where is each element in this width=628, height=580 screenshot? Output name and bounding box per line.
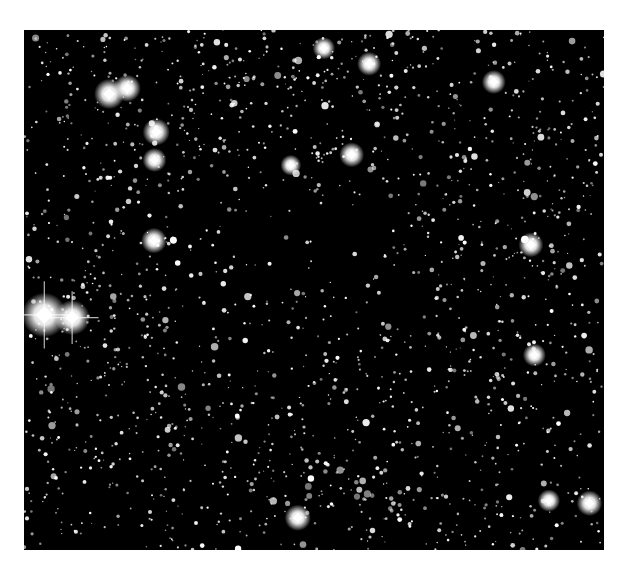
faint-star (62, 493, 64, 495)
faint-star (523, 181, 524, 182)
faint-star (392, 405, 395, 408)
faint-star (595, 171, 598, 174)
faint-star (362, 99, 366, 103)
faint-star (83, 147, 86, 150)
faint-star (510, 39, 513, 42)
faint-star (491, 130, 494, 133)
faint-star (252, 125, 255, 128)
faint-star (286, 127, 289, 130)
faint-star (247, 480, 249, 482)
faint-star (436, 465, 438, 467)
faint-star (417, 487, 422, 492)
faint-star (64, 471, 66, 473)
faint-star (534, 140, 535, 141)
faint-star (244, 76, 250, 82)
faint-star (580, 488, 582, 490)
faint-star (366, 301, 368, 303)
faint-star (300, 402, 302, 404)
faint-star (598, 431, 600, 433)
faint-star (252, 402, 254, 404)
bright-star-12 (482, 70, 506, 94)
faint-star (430, 130, 434, 134)
faint-star (541, 384, 542, 385)
faint-star (120, 230, 122, 232)
faint-star (497, 483, 499, 485)
faint-star (576, 205, 580, 209)
faint-star (263, 471, 264, 472)
faint-star (104, 372, 106, 374)
faint-star (588, 160, 590, 162)
faint-star (593, 161, 598, 166)
faint-star (120, 293, 122, 295)
faint-star (423, 506, 427, 510)
faint-star (576, 165, 579, 168)
faint-star (163, 328, 167, 332)
faint-star (322, 82, 324, 84)
faint-star (177, 190, 179, 192)
faint-star (83, 449, 87, 453)
faint-star (474, 395, 477, 398)
faint-star (134, 124, 136, 126)
faint-star (68, 104, 70, 106)
faint-star (358, 359, 360, 361)
faint-star (533, 212, 536, 215)
faint-star (149, 294, 151, 296)
faint-star (373, 47, 375, 49)
faint-star (542, 209, 546, 213)
faint-star (29, 334, 33, 338)
faint-star (263, 440, 265, 442)
faint-star (317, 156, 319, 158)
faint-star (41, 213, 44, 216)
faint-star (308, 385, 310, 387)
faint-star (38, 449, 41, 452)
faint-star (304, 100, 306, 102)
faint-star (396, 513, 399, 516)
faint-star (35, 338, 37, 340)
faint-star (574, 323, 577, 326)
faint-star (584, 46, 586, 48)
faint-star (147, 213, 151, 217)
faint-star (380, 75, 382, 77)
faint-star (580, 92, 582, 94)
faint-star (194, 137, 198, 141)
faint-star (600, 262, 604, 266)
faint-star (511, 109, 513, 111)
faint-star (92, 222, 94, 224)
faint-star (264, 146, 267, 149)
faint-star (384, 136, 386, 138)
faint-star (168, 443, 172, 447)
faint-star (324, 305, 327, 308)
faint-star (436, 334, 439, 337)
faint-star (470, 431, 474, 435)
faint-star (268, 433, 270, 435)
faint-star (46, 66, 47, 67)
faint-star (390, 509, 394, 513)
faint-star (328, 100, 330, 102)
faint-star (265, 45, 268, 48)
faint-star (212, 65, 217, 70)
faint-star (177, 83, 179, 85)
faint-star (539, 52, 541, 54)
faint-star (511, 468, 514, 471)
faint-star (168, 37, 170, 39)
faint-star (450, 365, 451, 366)
faint-star (91, 380, 92, 381)
faint-star (200, 85, 204, 89)
faint-star (401, 113, 403, 115)
faint-star (578, 477, 580, 479)
faint-star (212, 327, 215, 330)
faint-star (597, 530, 600, 533)
faint-star (505, 284, 507, 286)
faint-star (565, 369, 567, 371)
faint-star (450, 447, 453, 450)
faint-star (99, 375, 102, 378)
faint-star (321, 157, 323, 159)
faint-star (565, 351, 567, 353)
faint-star (386, 180, 389, 183)
faint-star (199, 155, 200, 156)
faint-star (293, 129, 298, 134)
faint-star (169, 537, 171, 539)
faint-star (284, 495, 286, 497)
faint-star (47, 461, 49, 463)
faint-star (342, 136, 345, 139)
